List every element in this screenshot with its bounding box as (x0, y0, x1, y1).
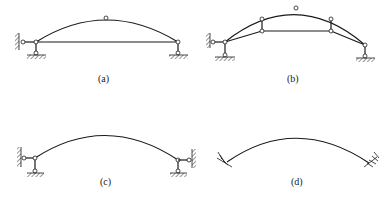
panel-c: (c) (17, 135, 196, 188)
arch-diagram: (a) (b) (0, 0, 391, 197)
panel-b: (b) (206, 6, 375, 85)
caption-d: (d) (291, 176, 303, 188)
panel-d: (d) (217, 138, 379, 188)
panel-a: (a) (15, 16, 188, 85)
caption-a: (a) (98, 73, 109, 85)
caption-b: (b) (287, 73, 299, 85)
caption-c: (c) (100, 176, 111, 188)
